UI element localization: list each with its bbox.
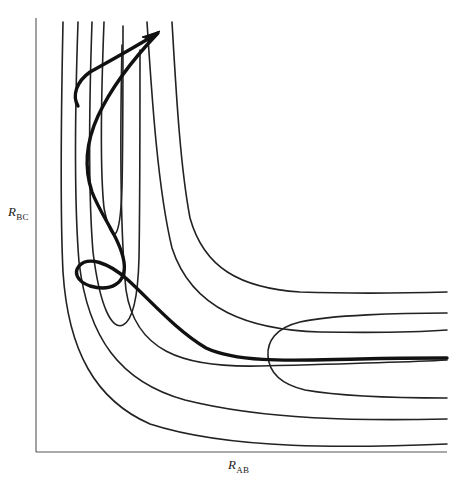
contour-diagram-figure: RBC RAB [0, 0, 455, 477]
x-axis-label-subscript: AB [236, 465, 249, 475]
y-axis-label-variable: R [8, 204, 16, 219]
contour-exit-u [268, 313, 447, 398]
x-axis-label-variable: R [228, 457, 236, 472]
axes-group [36, 18, 447, 452]
plot-canvas [0, 0, 455, 477]
x-axis-label: RAB [228, 455, 249, 475]
contour-outer-3 [172, 22, 447, 293]
y-axis-label-subscript: BC [16, 212, 29, 222]
contour-lines-group [61, 22, 447, 446]
contour-outer-4 [147, 22, 447, 332]
y-axis-label: RBC [8, 202, 29, 222]
contour-outer-1 [61, 22, 447, 446]
